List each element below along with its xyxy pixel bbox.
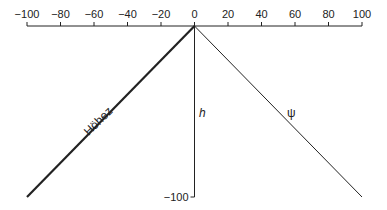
label-hoehez: Höhez (81, 104, 115, 138)
vertical-axis-min-label: −100 (164, 191, 189, 203)
label-h: h (199, 106, 206, 120)
x-tick-label: 80 (322, 8, 334, 20)
x-tick-label: −60 (85, 8, 104, 20)
line-psi (195, 26, 363, 197)
x-tick-label: 20 (222, 8, 234, 20)
x-tick-label: 60 (289, 8, 301, 20)
x-tick-label: −40 (118, 8, 137, 20)
x-tick-label: −20 (152, 8, 171, 20)
label-psi: ψ (287, 106, 296, 120)
x-axis-ticks: −100−80−60−40−20020406080100 (15, 8, 372, 26)
x-tick-label: 0 (191, 8, 197, 20)
diagram: −100−80−60−40−20020406080100 −100 Höhez … (0, 0, 387, 210)
x-tick-label: 40 (255, 8, 267, 20)
x-tick-label: 100 (353, 8, 371, 20)
x-tick-label: −80 (51, 8, 70, 20)
x-tick-label: −100 (15, 8, 40, 20)
